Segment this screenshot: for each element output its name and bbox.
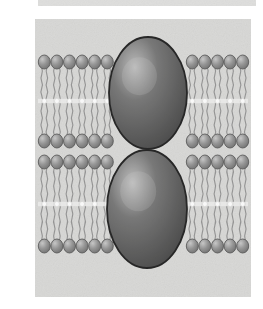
panel-grain-overlay bbox=[35, 19, 251, 297]
membrane-figure bbox=[0, 0, 263, 309]
membrane-stage bbox=[35, 19, 251, 297]
top-cropped-strip bbox=[38, 0, 256, 6]
membrane-diagram-svg bbox=[0, 0, 263, 309]
